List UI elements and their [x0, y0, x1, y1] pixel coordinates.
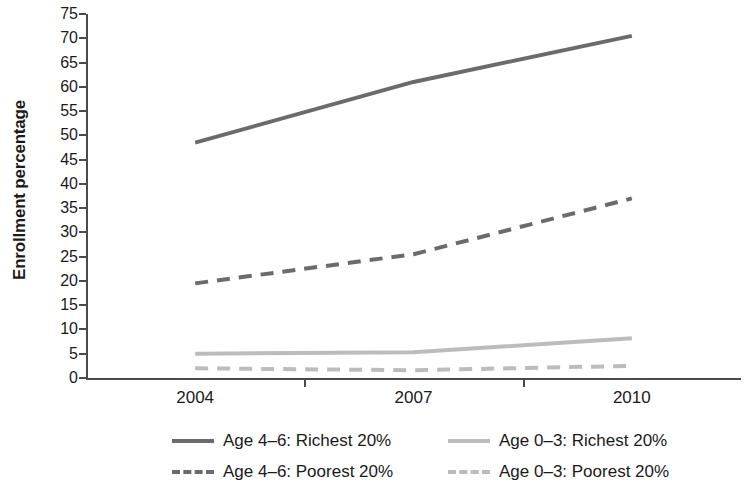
y-tick-label: 70	[60, 29, 78, 47]
y-tick-mark	[79, 280, 86, 282]
y-tick-mark	[79, 304, 86, 306]
x-tick-label: 2007	[395, 388, 433, 408]
y-tick-mark	[79, 134, 86, 136]
y-tick-label: 45	[60, 151, 78, 169]
x-tick-mark	[304, 378, 306, 387]
legend-swatch-icon	[172, 434, 214, 448]
y-tick-label: 60	[60, 78, 78, 96]
y-tick-mark	[79, 86, 86, 88]
x-axis-tick-labels: 200420072010	[86, 388, 741, 414]
legend-item[interactable]: Age 0–3: Poorest 20%	[448, 462, 669, 482]
y-tick-label: 35	[60, 199, 78, 217]
y-tick-label: 25	[60, 248, 78, 266]
chart-legend: Age 4–6: Richest 20%Age 0–3: Richest 20%…	[172, 427, 702, 489]
y-tick-mark	[79, 207, 86, 209]
y-tick-mark	[79, 328, 86, 330]
chart-figure: Enrollment percentage 051015202530354045…	[0, 0, 747, 492]
y-tick-mark	[79, 353, 86, 355]
legend-label: Age 4–6: Richest 20%	[223, 431, 391, 451]
x-tick-mark	[523, 378, 525, 387]
legend-swatch-icon	[448, 465, 490, 479]
y-tick-mark	[79, 110, 86, 112]
y-tick-label: 5	[69, 345, 78, 363]
legend-label: Age 0–3: Richest 20%	[499, 431, 667, 451]
legend-label: Age 4–6: Poorest 20%	[223, 462, 393, 482]
series-layer	[86, 14, 741, 379]
series-line	[195, 36, 632, 143]
legend-item[interactable]: Age 0–3: Richest 20%	[448, 431, 667, 451]
y-tick-label: 0	[69, 369, 78, 387]
y-tick-mark	[79, 256, 86, 258]
y-axis-tick-labels: 051015202530354045505560657075	[34, 0, 82, 392]
y-tick-mark	[79, 159, 86, 161]
legend-label: Age 0–3: Poorest 20%	[499, 462, 669, 482]
legend-row: Age 4–6: Richest 20%Age 0–3: Richest 20%	[172, 427, 702, 455]
plot-area	[86, 14, 741, 378]
y-tick-label: 55	[60, 102, 78, 120]
y-tick-mark	[79, 377, 86, 379]
legend-swatch-icon	[448, 434, 490, 448]
series-line	[195, 338, 632, 354]
y-tick-mark	[79, 62, 86, 64]
y-tick-label: 15	[60, 296, 78, 314]
y-axis-title-text: Enrollment percentage	[10, 100, 30, 280]
y-tick-label: 10	[60, 320, 78, 338]
y-tick-label: 40	[60, 175, 78, 193]
legend-item[interactable]: Age 4–6: Richest 20%	[172, 431, 448, 451]
series-line	[195, 198, 632, 283]
y-axis-title: Enrollment percentage	[6, 0, 34, 380]
y-tick-label: 20	[60, 272, 78, 290]
x-tick-label: 2004	[176, 388, 214, 408]
legend-row: Age 4–6: Poorest 20%Age 0–3: Poorest 20%	[172, 458, 702, 486]
y-tick-label: 65	[60, 54, 78, 72]
x-tick-label: 2010	[613, 388, 651, 408]
y-tick-label: 75	[60, 5, 78, 23]
y-tick-label: 50	[60, 126, 78, 144]
y-tick-mark	[79, 231, 86, 233]
y-tick-label: 30	[60, 223, 78, 241]
legend-item[interactable]: Age 4–6: Poorest 20%	[172, 462, 448, 482]
legend-swatch-icon	[172, 465, 214, 479]
series-line	[195, 366, 632, 370]
y-tick-mark	[79, 183, 86, 185]
y-tick-mark	[79, 13, 86, 15]
y-tick-mark	[79, 37, 86, 39]
